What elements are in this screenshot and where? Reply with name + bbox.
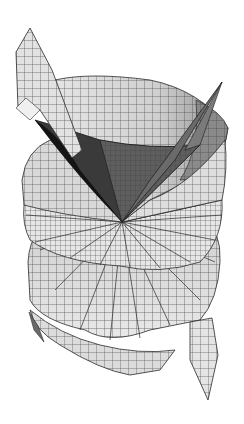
surface-figure — [0, 0, 244, 424]
surface-plot — [0, 0, 244, 424]
